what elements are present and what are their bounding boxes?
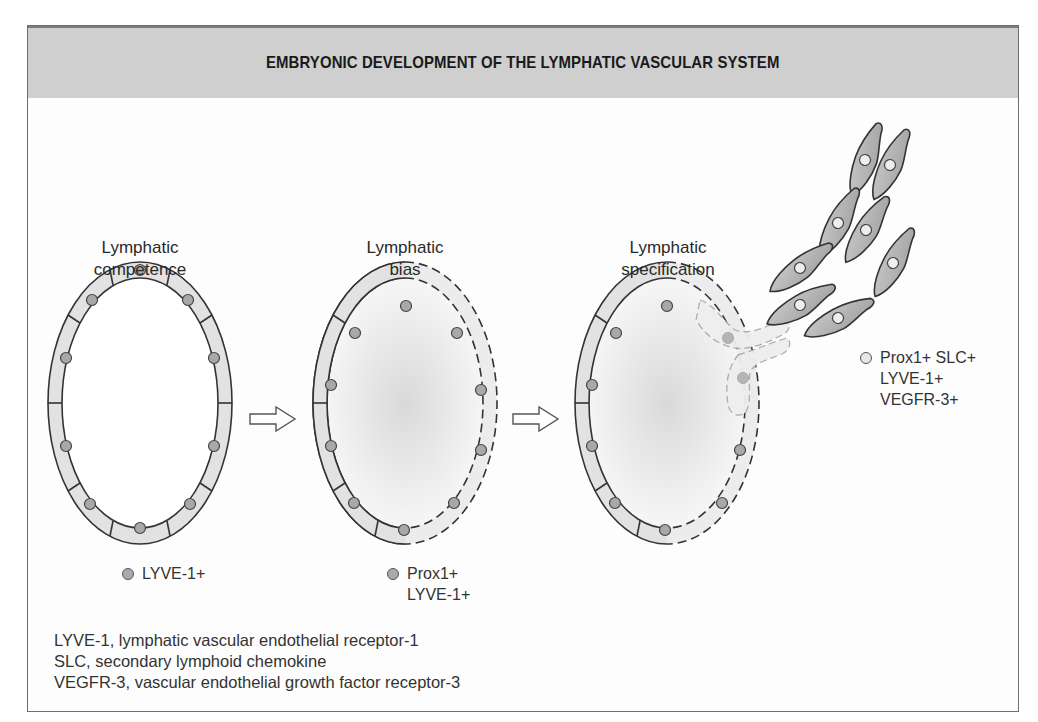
hollow-right-arrow-icon (250, 407, 295, 431)
footnote-line: VEGFR-3, vascular endothelial growth fac… (54, 672, 460, 693)
vessel-bias (313, 262, 497, 544)
stage-label-competence: Lymphatic competence (60, 237, 220, 281)
legend-competence: LYVE-1+ (122, 563, 205, 584)
hollow-right-arrow-icon (513, 407, 558, 431)
stage-label-line: competence (60, 259, 220, 281)
legend-text: Prox1+ (407, 565, 458, 582)
legend-specification: Prox1+ SLC+ LYVE-1+ VEGFR-3+ (860, 347, 976, 410)
legend-bias: Prox1+ LYVE-1+ (387, 563, 470, 605)
stage-label-line: Lymphatic (325, 237, 485, 259)
stage-label-line: specification (588, 259, 748, 281)
migrating-lymphatic-cells (762, 119, 922, 346)
footnote-line: LYVE-1, lymphatic vascular endothelial r… (54, 630, 460, 651)
legend-text: LYVE-1+ (880, 370, 943, 387)
stage-label-specification: Lymphatic specification (588, 237, 748, 281)
light-dot-icon (860, 352, 872, 364)
legend-text: VEGFR-3+ (880, 391, 959, 408)
gray-dot-icon (122, 568, 134, 580)
legend-text: LYVE-1+ (142, 565, 205, 582)
stage-label-line: Lymphatic (60, 237, 220, 259)
stage-label-line: Lymphatic (588, 237, 748, 259)
stage-label-line: bias (325, 259, 485, 281)
legend-text: Prox1+ SLC+ (880, 349, 976, 366)
gray-dot-icon (387, 568, 399, 580)
vessel-competence (48, 262, 232, 544)
stage-label-bias: Lymphatic bias (325, 237, 485, 281)
footnote-line: SLC, secondary lymphoid chemokine (54, 651, 460, 672)
abbreviation-footnotes: LYVE-1, lymphatic vascular endothelial r… (54, 630, 460, 693)
legend-text: LYVE-1+ (407, 586, 470, 603)
vessel-specification (575, 262, 790, 544)
